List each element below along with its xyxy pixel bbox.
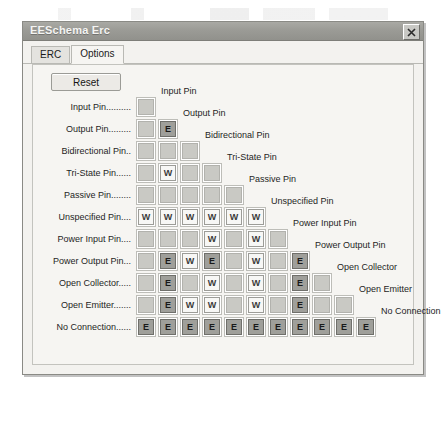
matrix-cell[interactable] [136,141,156,161]
matrix-cell[interactable] [224,295,244,315]
matrix-row-label: Passive Pin........ [35,190,131,201]
matrix-cell[interactable] [224,273,244,293]
matrix-cell[interactable]: E [224,317,244,337]
matrix-cell-ok-icon [160,187,176,203]
matrix-cell[interactable] [202,185,222,205]
matrix-cell[interactable] [158,141,178,161]
matrix-cell[interactable] [268,273,288,293]
matrix-cell-err-icon: E [204,319,220,335]
matrix-cell[interactable]: W [246,273,266,293]
matrix-cell[interactable]: E [136,317,156,337]
matrix-cell[interactable]: E [246,317,266,337]
matrix-cell[interactable]: E [290,317,310,337]
matrix-cell-err-icon: E [292,319,308,335]
matrix-cell[interactable]: W [136,207,156,227]
matrix-cell[interactable]: W [202,229,222,249]
matrix-cell-err-icon: E [314,319,330,335]
matrix-cell-ok-icon [138,231,154,247]
matrix-cell[interactable] [136,251,156,271]
matrix-cell-warn-icon: W [182,253,198,269]
matrix-cell-warn-icon: W [248,253,264,269]
matrix-cell[interactable]: E [158,295,178,315]
matrix-cell-ok-icon [314,297,330,313]
matrix-cell[interactable]: E [158,273,178,293]
matrix-cell-ok-icon [160,143,176,159]
matrix-cell[interactable]: W [202,273,222,293]
matrix-cell[interactable] [180,185,200,205]
matrix-cell[interactable] [136,97,156,117]
matrix-cell[interactable]: E [290,251,310,271]
matrix-cell[interactable]: W [246,229,266,249]
matrix-col-label: Output Pin [183,108,226,119]
matrix-cell[interactable] [180,163,200,183]
matrix-cell[interactable]: W [180,251,200,271]
matrix-cell[interactable]: W [180,295,200,315]
matrix-cell-err-icon: E [292,297,308,313]
matrix-cell[interactable]: E [158,317,178,337]
matrix-cell[interactable] [312,295,332,315]
matrix-cell[interactable] [136,295,156,315]
matrix-cell[interactable]: W [246,207,266,227]
matrix-cell-err-icon: E [270,319,286,335]
matrix-cell[interactable] [158,229,178,249]
matrix-cell[interactable]: E [202,317,222,337]
matrix-cell[interactable] [334,295,354,315]
matrix-cell[interactable]: W [224,207,244,227]
matrix-cell[interactable] [224,251,244,271]
matrix-cell[interactable] [268,295,288,315]
matrix-cell-ok-icon [138,253,154,269]
matrix-col-label: Input Pin [161,86,197,97]
matrix-cell[interactable] [136,163,156,183]
matrix-cell[interactable]: W [246,251,266,271]
matrix-cell[interactable]: E [158,119,178,139]
matrix-cell[interactable]: W [246,295,266,315]
matrix-cell[interactable] [268,229,288,249]
matrix-cell[interactable] [180,141,200,161]
matrix-cell-warn-icon: W [204,231,220,247]
matrix-col-label: Open Emitter [359,284,412,295]
matrix-cell[interactable] [136,273,156,293]
matrix-cell[interactable] [136,119,156,139]
matrix-cell[interactable]: E [268,317,288,337]
matrix-cell-warn-icon: W [160,165,176,181]
tab-options[interactable]: Options [71,45,123,64]
matrix-cell[interactable] [224,185,244,205]
matrix-cell[interactable]: E [290,295,310,315]
matrix-cell[interactable] [268,251,288,271]
matrix-cell[interactable]: W [202,207,222,227]
reset-button[interactable]: Reset [51,73,121,91]
matrix-cell[interactable] [180,229,200,249]
matrix-cell[interactable]: E [180,317,200,337]
matrix-cell[interactable]: E [356,317,376,337]
matrix-cell-err-icon: E [182,319,198,335]
matrix-cell-ok-icon [182,275,198,291]
matrix-cell[interactable] [224,229,244,249]
matrix-cell-ok-icon [270,275,286,291]
window-title: EESchema Erc [30,24,110,36]
matrix-cell[interactable] [180,273,200,293]
matrix-cell-ok-icon [314,275,330,291]
matrix-cell-warn-icon: W [226,209,242,225]
matrix-cell[interactable] [158,185,178,205]
matrix-cell[interactable]: E [334,317,354,337]
matrix-cell[interactable]: E [312,317,332,337]
matrix-cell[interactable]: W [158,207,178,227]
matrix-cell-ok-icon [138,275,154,291]
matrix-cell-ok-icon [270,253,286,269]
close-icon[interactable] [403,24,420,40]
matrix-col-label: No Connection [381,306,441,317]
matrix-cell[interactable]: W [202,295,222,315]
matrix-cell[interactable]: E [290,273,310,293]
erc-dialog-window: EESchema Erc ERCOptions Reset Input Pin.… [22,21,424,375]
matrix-cell[interactable] [202,163,222,183]
matrix-cell[interactable]: W [158,163,178,183]
matrix-cell[interactable] [312,273,332,293]
matrix-cell[interactable]: E [202,251,222,271]
matrix-cell[interactable] [136,229,156,249]
matrix-cell[interactable]: E [158,251,178,271]
matrix-cell[interactable] [136,185,156,205]
tab-erc[interactable]: ERC [31,46,70,63]
matrix-cell[interactable]: W [180,207,200,227]
matrix-cell-ok-icon [182,231,198,247]
matrix-cell-err-icon: E [160,275,176,291]
